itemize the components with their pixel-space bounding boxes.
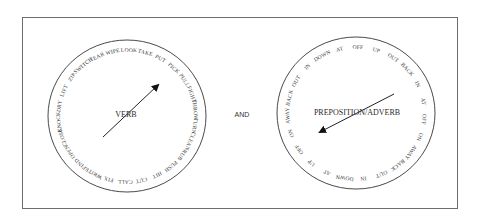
dial-word: FIX [103,176,114,184]
dial-word: DOWN [313,48,332,62]
dial-word: RUB [176,148,188,161]
dial-word: UP [306,158,316,167]
dial-word: BACK [389,158,406,173]
dial-word: PUSH [163,160,178,174]
dial-word: ON [416,132,425,142]
dial-word: UP [372,46,381,54]
dial-word: PUT [154,53,167,64]
dial-word: TAKE [137,47,154,57]
preposition-center-label: PREPOSITION/ADVERB [314,108,400,117]
dial-word: IN [303,62,312,71]
verb-center-label: VERB [115,110,136,119]
dial-word: OUT [290,74,301,88]
dial-word: OFF [352,44,363,50]
dial-word: OFF [293,143,304,155]
dial-word: DRY [55,100,63,113]
preposition-adverb-dial: ATOFFUPOUTBACKINATOFFONAWAYBACKOUTINDOWN… [277,37,435,189]
dial-word: CUT [135,176,148,184]
dial-word: DOWN [335,174,354,183]
dial-word: CLEAN [184,131,197,151]
dial-word: OUT [374,169,388,179]
dial-word: AT [420,97,427,106]
dial-word: WIPE [105,47,121,56]
dial-word: IN [414,80,422,88]
dial-word: AT [335,45,344,53]
dial-word: ON [287,128,295,138]
dial-word: BACK [400,61,415,77]
verb-dial: TEARWIPELOOKTAKEPUTPICKPULLFIGHTTHROWTUR… [48,40,206,192]
dial-word: PICK [167,61,181,75]
dial-word: AWAY [284,107,291,124]
dial-word: OFF [421,114,428,125]
dial-word: AT [322,168,331,177]
dial-word: LOOK [121,47,138,53]
dial-word: IN [360,175,367,182]
and-connector-label: AND [235,111,250,118]
dial-word: BACK [284,89,294,106]
phrasal-verb-dials: TEARWIPELOOKTAKEPUTPICKPULLFIGHTTHROWTUR… [0,0,478,223]
dial-word: FIND [73,157,87,171]
dial-word: LIFT [58,83,69,97]
dial-word: AWAY [404,144,419,161]
dial-word: CALL [117,179,133,185]
dial-word: OUT [387,52,401,64]
dial-word: HIT [151,170,163,180]
dial-word: KNOCK [55,111,63,132]
